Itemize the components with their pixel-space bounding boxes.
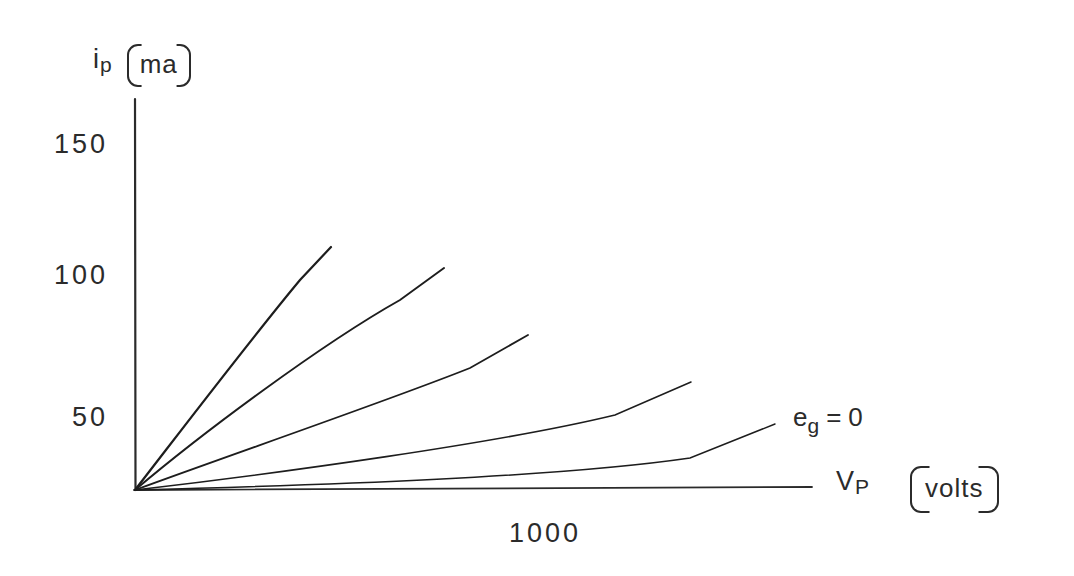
grid-bias-annotation: eg=0	[793, 402, 863, 433]
x-axis-title: V P volts	[836, 466, 999, 513]
y-tick-label-150: 150	[20, 129, 108, 160]
curve-4	[135, 382, 691, 490]
x-axis-unit: volts	[925, 473, 983, 504]
curve-1	[135, 247, 331, 490]
y-axis-symbol: i	[93, 44, 99, 75]
y-axis-subscript: p	[100, 53, 112, 77]
x-axis-subscript: P	[855, 475, 869, 499]
y-axis-title: i p ma	[93, 44, 191, 87]
y-axis-unit: ma	[140, 49, 178, 80]
x-axis-unit-bracket: volts	[910, 466, 998, 513]
grid-bias-value: 0	[848, 402, 862, 432]
x-tick-label-1000: 1000	[509, 518, 581, 549]
y-tick-label-50: 50	[20, 402, 108, 433]
y-axis-unit-bracket: ma	[127, 44, 191, 87]
grid-bias-symbol: e	[793, 402, 807, 432]
grid-bias-operator: =	[819, 402, 848, 432]
y-axis	[135, 99, 136, 490]
curve-5	[135, 424, 775, 490]
y-tick-label-100: 100	[20, 260, 108, 291]
plate-characteristic-figure: i p ma 150 100 50 1000 eg=0 V P volts	[0, 0, 1074, 576]
curve-2	[135, 268, 444, 490]
x-axis-symbol: V	[836, 466, 854, 497]
grid-bias-subscript: g	[807, 414, 819, 437]
